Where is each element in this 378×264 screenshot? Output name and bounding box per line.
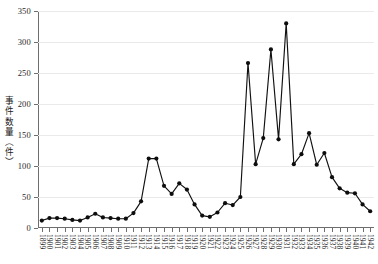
x-axis-tick [279, 228, 280, 232]
data-point [185, 187, 189, 191]
y-axis-tick-label: 0 [27, 223, 31, 233]
x-axis-tick [210, 228, 211, 232]
data-point [223, 201, 227, 205]
data-point [261, 136, 265, 140]
data-point [200, 214, 204, 218]
data-point [154, 156, 158, 160]
x-axis-tick [271, 228, 272, 232]
x-axis-tick [42, 228, 43, 232]
data-point [238, 195, 242, 199]
data-point [215, 210, 219, 214]
data-point [254, 162, 258, 166]
x-axis-tick [263, 228, 264, 232]
y-axis-tick-label: 150 [18, 130, 31, 140]
x-axis-tick [172, 228, 173, 232]
data-point [116, 217, 120, 221]
data-point [47, 216, 51, 220]
data-point [101, 215, 105, 219]
x-axis-tick [126, 228, 127, 232]
x-axis-tick [49, 228, 50, 232]
series-line [42, 23, 370, 220]
chart-figure: 事件数量（件） 050100150200250300350 1899190019… [0, 0, 378, 264]
plot-area: 050100150200250300350 189919001901190219… [38, 11, 374, 228]
x-axis-tick [111, 228, 112, 232]
data-point [170, 192, 174, 196]
data-point [208, 215, 212, 219]
x-axis-tick [363, 228, 364, 232]
data-point [93, 212, 97, 216]
data-point [299, 152, 303, 156]
x-axis-tick [355, 228, 356, 232]
data-point [108, 216, 112, 220]
x-axis-tick [340, 228, 341, 232]
data-point [315, 163, 319, 167]
data-point [345, 191, 349, 195]
x-axis-tick [294, 228, 295, 232]
x-axis-tick [202, 228, 203, 232]
data-series [38, 11, 374, 228]
x-axis-tick [118, 228, 119, 232]
data-point [192, 202, 196, 206]
x-axis-tick [179, 228, 180, 232]
data-point [162, 184, 166, 188]
data-point [284, 21, 288, 25]
y-axis-tick-label: 350 [18, 6, 31, 16]
x-axis-tick [225, 228, 226, 232]
y-axis-tick [34, 228, 38, 229]
x-axis-tick [233, 228, 234, 232]
x-axis-tick [95, 228, 96, 232]
y-axis-tick-label: 300 [18, 37, 31, 47]
data-point [55, 216, 59, 220]
x-axis-tick [80, 228, 81, 232]
data-point [231, 203, 235, 207]
data-point [330, 175, 334, 179]
x-axis-tick [240, 228, 241, 232]
x-axis-tick [72, 228, 73, 232]
x-axis-tick [309, 228, 310, 232]
x-axis-tick [332, 228, 333, 232]
x-axis-tick [141, 228, 142, 232]
data-point [322, 151, 326, 155]
x-axis-tick [370, 228, 371, 232]
x-axis-tick [65, 228, 66, 232]
x-axis-tick [324, 228, 325, 232]
y-axis-tick-label: 250 [18, 68, 31, 78]
data-point [246, 61, 250, 65]
y-axis-tick-label: 50 [22, 192, 31, 202]
data-point [124, 217, 128, 221]
x-axis-tick-label: 1942 [366, 234, 373, 249]
y-axis-title: 事件数量（件） [2, 96, 14, 167]
data-point [131, 211, 135, 215]
x-axis-tick [217, 228, 218, 232]
data-point [78, 218, 82, 222]
x-axis-tick [164, 228, 165, 232]
x-axis-tick [317, 228, 318, 232]
data-point [368, 209, 372, 213]
x-axis-tick [103, 228, 104, 232]
x-axis-tick [195, 228, 196, 232]
x-axis-tick [88, 228, 89, 232]
data-point [70, 218, 74, 222]
x-axis-tick [57, 228, 58, 232]
data-point [139, 199, 143, 203]
y-axis-tick-label: 100 [18, 161, 31, 171]
x-axis-tick [286, 228, 287, 232]
x-axis-tick [256, 228, 257, 232]
data-point [269, 47, 273, 51]
data-point [276, 137, 280, 141]
x-axis-tick [156, 228, 157, 232]
data-point [292, 162, 296, 166]
y-axis-tick-label: 200 [18, 99, 31, 109]
x-axis-tick [187, 228, 188, 232]
data-point [353, 191, 357, 195]
data-point [63, 217, 67, 221]
data-point [307, 131, 311, 135]
data-point [360, 202, 364, 206]
data-point [40, 218, 44, 222]
x-axis-tick [248, 228, 249, 232]
x-axis-tick [149, 228, 150, 232]
data-point [147, 156, 151, 160]
data-point [338, 186, 342, 190]
data-point [177, 181, 181, 185]
x-axis-tick [133, 228, 134, 232]
